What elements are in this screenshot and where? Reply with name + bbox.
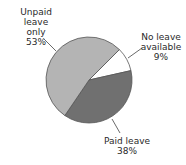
- label-paid-value: 38%: [99, 146, 155, 156]
- label-noleave-line2: available: [136, 42, 186, 52]
- label-unpaid-line2: only: [8, 27, 64, 37]
- label-no-leave: No leave available 9%: [136, 32, 186, 62]
- label-noleave-value: 9%: [136, 52, 186, 62]
- label-paid-leave: Paid leave 38%: [99, 136, 155, 156]
- label-paid-line1: Paid leave: [99, 136, 155, 146]
- label-noleave-line1: No leave: [136, 32, 186, 42]
- leader-line-paid: [112, 119, 120, 133]
- label-unpaid-line1: Unpaid leave: [8, 7, 64, 27]
- label-unpaid-value: 53%: [8, 37, 64, 47]
- label-unpaid-leave: Unpaid leave only 53%: [8, 7, 64, 47]
